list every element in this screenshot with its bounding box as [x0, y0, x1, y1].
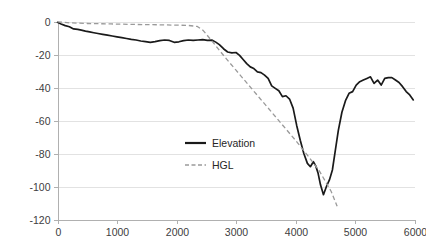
x-tick-label: 1000	[106, 226, 130, 238]
legend-label-hgl: HGL	[212, 159, 234, 171]
x-tick-label: 3000	[225, 226, 249, 238]
y-tick-label: -20	[35, 49, 50, 61]
series-line-elevation	[58, 22, 414, 194]
chart-legend: ElevationHGL	[185, 137, 255, 171]
y-tick-label: -100	[29, 181, 50, 193]
x-tick-label: 4000	[285, 226, 309, 238]
line-chart: 0-20-40-60-80-100-120 010002000300040005…	[0, 0, 426, 250]
y-tick-label: -120	[29, 214, 50, 226]
x-axis-tick-labels: 0100020003000400050006000	[56, 220, 426, 238]
y-tick-label: 0	[45, 16, 51, 28]
y-axis-tick-labels: 0-20-40-60-80-100-120	[29, 16, 58, 226]
data-series	[58, 22, 414, 206]
y-tick-label: -80	[35, 148, 50, 160]
chart-container: 0-20-40-60-80-100-120 010002000300040005…	[0, 0, 426, 250]
x-tick-label: 5000	[344, 226, 368, 238]
x-tick-label: 0	[56, 226, 62, 238]
y-tick-label: -40	[35, 82, 50, 94]
y-tick-label: -60	[35, 115, 50, 127]
legend-label-elevation: Elevation	[212, 137, 255, 149]
axes	[58, 22, 415, 221]
x-tick-label: 6000	[404, 226, 426, 238]
x-tick-label: 2000	[166, 226, 190, 238]
